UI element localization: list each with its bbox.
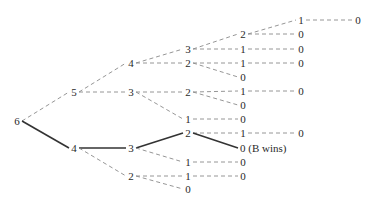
- tree-edge: [193, 92, 238, 105]
- tree-node: 2: [184, 87, 192, 98]
- tree-node: 1: [184, 157, 192, 168]
- tree-node: 0: [297, 128, 305, 139]
- tree-node: 3: [127, 87, 135, 98]
- tree-node: 0: [297, 29, 305, 40]
- tree-edge: [193, 91, 238, 92]
- tree-node: 0: [297, 58, 305, 69]
- tree-edge: [79, 148, 126, 176]
- tree-node: 1: [297, 15, 305, 26]
- tree-node: 6: [13, 116, 21, 127]
- tree-node: 3: [127, 143, 135, 154]
- tree-node: 0: [239, 100, 247, 111]
- tree-edge: [136, 49, 183, 63]
- tree-node: 0: [239, 171, 247, 182]
- tree-node: 2: [184, 58, 192, 69]
- tree-node: 0: [297, 44, 305, 55]
- tree-node: 2: [239, 29, 247, 40]
- tree-edge: [248, 20, 296, 34]
- terminal-node-b-wins: 0 (B wins): [239, 143, 287, 154]
- winning-path-edge: [136, 133, 183, 148]
- tree-node: 1: [239, 128, 247, 139]
- tree-edge: [136, 92, 183, 119]
- tree-node: 0: [297, 86, 305, 97]
- tree-node: 1: [239, 44, 247, 55]
- tree-node: 5: [70, 87, 78, 98]
- tree-node: 4: [127, 58, 135, 69]
- tree-node: 0: [239, 157, 247, 168]
- tree-node: 1: [184, 171, 192, 182]
- tree-node: 0: [239, 72, 247, 83]
- tree-node: 3: [184, 44, 192, 55]
- winning-path-edge: [22, 121, 69, 148]
- winning-path-edge: [193, 133, 238, 148]
- tree-node: 4: [70, 143, 78, 154]
- game-tree-diagram: 654433232212110211010010 (B wins)0010000…: [0, 0, 378, 207]
- tree-edge: [193, 63, 238, 77]
- tree-node: 0: [354, 15, 362, 26]
- tree-edge: [136, 176, 183, 189]
- tree-edge: [79, 63, 126, 92]
- tree-node: 1: [239, 86, 247, 97]
- tree-edge: [136, 148, 183, 162]
- tree-node: 1: [184, 114, 192, 125]
- tree-node: 0: [184, 184, 192, 195]
- tree-node: 2: [127, 171, 135, 182]
- tree-node: 0: [239, 114, 247, 125]
- tree-edge: [193, 34, 238, 49]
- tree-node: 2: [184, 128, 192, 139]
- tree-node: 1: [239, 58, 247, 69]
- tree-edge: [22, 92, 69, 121]
